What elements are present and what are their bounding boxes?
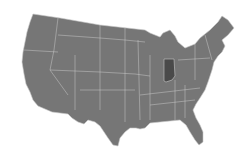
us-map xyxy=(0,0,251,161)
indiana-state xyxy=(164,59,175,82)
us-outline xyxy=(22,14,234,146)
